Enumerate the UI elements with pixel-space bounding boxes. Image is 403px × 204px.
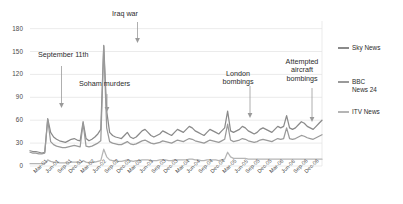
y-axis-tick-label: 30 <box>3 139 23 146</box>
annotation-attempted-aircraft-bombings: Attempted aircraft bombings <box>276 58 328 83</box>
y-axis-tick-label: 180 <box>3 25 23 32</box>
legend-label: ITV News <box>352 108 380 116</box>
legend-color-swatch <box>338 111 349 113</box>
legend-item[interactable]: Sky News <box>338 44 380 52</box>
gridlines <box>30 21 322 166</box>
annotation-soham-murders: Soham murders <box>79 80 130 88</box>
y-axis-tick-label: 60 <box>3 116 23 123</box>
y-axis-tick-label: 0 <box>3 162 23 169</box>
legend-label: BBC News 24 <box>352 78 377 94</box>
annotation-september-11th: September 11th <box>38 51 89 59</box>
chart-container: 1801501209060300 Mar-01Jun-01Sep-01Dec-0… <box>0 0 403 204</box>
y-axis-tick-label: 120 <box>3 70 23 77</box>
annotation-arrow-head <box>135 38 140 43</box>
legend-item[interactable]: BBC News 24 <box>338 78 377 94</box>
legend-color-swatch <box>338 81 349 83</box>
annotation-arrow-head <box>59 103 64 108</box>
legend-item[interactable]: ITV News <box>338 108 380 116</box>
legend-color-swatch <box>338 47 349 49</box>
annotation-arrow-head <box>310 117 315 122</box>
y-axis-tick-label: 150 <box>3 48 23 55</box>
annotation-arrow-head <box>105 107 110 112</box>
y-axis-tick-label: 90 <box>3 93 23 100</box>
annotation-london-bombings: London bombings <box>214 70 262 87</box>
annotation-arrow-head <box>248 113 253 118</box>
legend-label: Sky News <box>352 44 380 52</box>
annotation-iraq-war: Iraq war <box>112 10 138 18</box>
